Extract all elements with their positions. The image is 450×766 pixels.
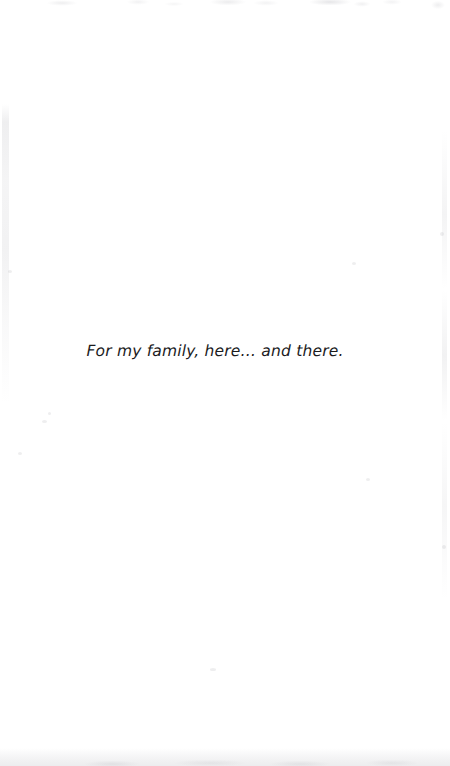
scan-speck <box>8 270 12 273</box>
scan-speck <box>42 420 47 423</box>
scan-speck <box>210 668 216 671</box>
scan-speck <box>440 232 444 236</box>
scan-shadow-bottom-edge <box>0 748 450 766</box>
scan-noise-top-edge <box>0 0 450 14</box>
scan-speck <box>352 262 356 265</box>
scan-speck <box>366 478 370 481</box>
scan-speck <box>48 412 51 415</box>
dedication-text: For my family, here… and there. <box>86 342 343 360</box>
scan-speck <box>18 452 22 455</box>
dedication-block: For my family, here… and there. <box>0 341 450 360</box>
dedication-page: For my family, here… and there. <box>0 0 450 766</box>
scan-speckle-right-edge <box>442 130 447 600</box>
scan-speck <box>442 545 446 549</box>
